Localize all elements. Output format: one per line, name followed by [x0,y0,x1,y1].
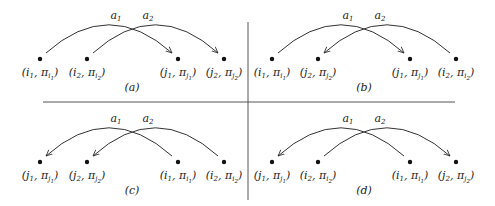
panel-c: a1a2(j1, πj1)(j2, πj2)(i1, πi1)(i2, πi2)… [22,112,242,197]
node-dot [454,57,458,61]
arc-crossing-diagram: a1a2(i1, πi1)(i2, πi2)(j1, πj1)(j2, πj2)… [0,0,495,206]
arc-label-a2: a2 [142,9,154,23]
node-label: (j1, πj1) [160,66,196,81]
arc-a2 [93,128,218,156]
node-label: (i2, πi2) [206,169,243,184]
node-dot [270,160,274,164]
arc-a2 [324,128,450,156]
arc-label-a1: a1 [342,112,353,126]
arc-label-a2: a2 [374,112,386,126]
panel-d: a1a2(j1, πj1)(i2, πi2)(i1, πi1)(j2, πj2)… [254,112,474,197]
arc-label-a1: a1 [110,112,121,126]
node-label: (i1, πi1) [254,66,291,81]
arc-a2 [93,25,218,53]
node-dot [222,160,226,164]
arc-label-a1: a1 [110,9,121,23]
node-dot [408,57,412,61]
node-label: (j2, πj2) [206,66,242,81]
arc-a1 [46,25,172,53]
arc-label-a1: a1 [342,9,353,23]
node-label: (i2, πi2) [438,66,475,81]
panel-caption: (c) [125,184,140,197]
node-dot [176,57,180,61]
panel-caption: (d) [356,184,372,197]
node-label: (i2, πi2) [69,66,106,81]
node-dot [316,160,320,164]
node-dot [176,160,180,164]
panel-caption: (b) [356,81,372,94]
node-dot [85,57,89,61]
node-label: (i1, πi1) [160,169,197,184]
node-label: (j2, πj2) [438,169,474,184]
node-label: (i2, πi2) [300,169,337,184]
node-dot [222,57,226,61]
node-label: (j1, πj1) [22,169,58,184]
arc-a1 [278,128,404,156]
panel-a: a1a2(i1, πi1)(i2, πi2)(j1, πj1)(j2, πj2)… [22,9,242,94]
arc-label-a2: a2 [142,112,154,126]
node-dot [270,57,274,61]
panel-b: a1a2(i1, πi1)(j2, πj2)(j1, πj1)(i2, πi2)… [254,9,475,94]
arc-a2 [324,25,450,53]
panel-caption: (a) [124,81,139,94]
node-dot [85,160,89,164]
node-dot [316,57,320,61]
node-dot [454,160,458,164]
node-dot [38,57,42,61]
node-dot [38,160,42,164]
node-label: (j2, πj2) [69,169,105,184]
node-label: (i1, πi1) [392,169,429,184]
arc-label-a2: a2 [374,9,386,23]
node-label: (j1, πj1) [392,66,428,81]
node-label: (i1, πi1) [22,66,59,81]
node-label: (j2, πj2) [300,66,336,81]
node-label: (j1, πj1) [254,169,290,184]
arc-a1 [278,25,404,53]
arc-a1 [46,128,172,156]
node-dot [408,160,412,164]
